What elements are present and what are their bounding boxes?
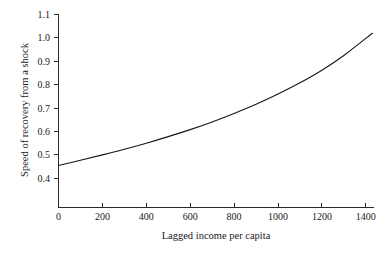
y-tick-label: 0.8 bbox=[38, 79, 51, 90]
x-axis-title: Lagged income per capita bbox=[162, 230, 271, 241]
x-tick-label: 200 bbox=[95, 211, 110, 222]
line-chart: 1.1 1.0 0.9 0.8 0.7 0.6 0.5 0.4 0 200 40… bbox=[0, 0, 391, 261]
y-tick-label: 1.1 bbox=[38, 9, 51, 20]
y-tick-label: 0.4 bbox=[38, 173, 51, 184]
x-tick-label: 1000 bbox=[268, 211, 288, 222]
x-tick-label: 1400 bbox=[356, 211, 376, 222]
recovery-speed-curve bbox=[59, 33, 373, 165]
chart-figure: 1.1 1.0 0.9 0.8 0.7 0.6 0.5 0.4 0 200 40… bbox=[0, 0, 391, 261]
x-tick-label: 1200 bbox=[312, 211, 332, 222]
y-tick-label: 0.6 bbox=[38, 126, 51, 137]
x-tick-label: 0 bbox=[56, 211, 61, 222]
y-tick-label: 0.9 bbox=[38, 56, 51, 67]
y-tick-label: 1.0 bbox=[38, 32, 51, 43]
x-tick-label: 800 bbox=[227, 211, 242, 222]
x-axis-tick-labels: 0 200 400 600 800 1000 1200 1400 bbox=[56, 211, 376, 222]
x-tick-label: 600 bbox=[183, 211, 198, 222]
x-axis-ticks bbox=[59, 203, 366, 208]
y-axis-tick-labels: 1.1 1.0 0.9 0.8 0.7 0.6 0.5 0.4 bbox=[38, 9, 51, 184]
x-tick-label: 400 bbox=[139, 211, 154, 222]
y-tick-label: 0.5 bbox=[38, 149, 51, 160]
y-tick-label: 0.7 bbox=[38, 103, 51, 114]
y-axis-title: Speed of recovery from a shock bbox=[19, 42, 30, 177]
y-axis-ticks bbox=[54, 15, 59, 179]
